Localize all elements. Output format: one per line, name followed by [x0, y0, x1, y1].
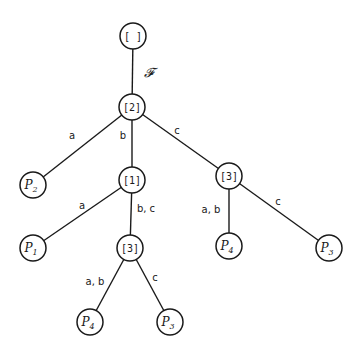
leaf-node-p3l: P3 — [157, 309, 183, 335]
edge-label: a — [79, 200, 85, 211]
node-label: [3] — [121, 243, 139, 254]
node-label: [1] — [123, 175, 141, 186]
leaf-node-p4l: P4 — [77, 309, 103, 335]
node-label: [ ] — [124, 31, 142, 42]
nodes-layer: [ ][2]P2[1][3]P1[3]P4P3P4P3 — [20, 23, 342, 335]
state-node-n3r: [3] — [216, 163, 242, 189]
edge-label: a — [69, 130, 75, 141]
edge-labels-layer: 𝓕abcab, ca, bca, bc — [69, 65, 281, 287]
node-label: [3] — [220, 171, 238, 182]
state-node-root: [ ] — [120, 23, 146, 49]
edge-n2-p2 — [33, 107, 132, 185]
edge-label: a, b — [202, 204, 221, 215]
edge-label: b — [120, 130, 126, 141]
edge-label: c — [152, 272, 158, 283]
leaf-node-p4r: P4 — [216, 233, 242, 259]
state-node-n1: [1] — [119, 167, 145, 193]
edges-layer — [33, 36, 329, 322]
tree-diagram: 𝓕abcab, ca, bca, bc [ ][2]P2[1][3]P1[3]P… — [0, 0, 358, 357]
state-node-n3l: [3] — [117, 235, 143, 261]
node-label: [2] — [123, 102, 141, 113]
leaf-node-p1: P1 — [20, 235, 46, 261]
state-node-n2: [2] — [119, 94, 145, 120]
edge-label: c — [275, 196, 281, 207]
leaf-node-p2: P2 — [20, 172, 46, 198]
edge-label: a, b — [86, 276, 105, 287]
edge-label: 𝓕 — [144, 65, 158, 80]
edge-n2-n3r — [132, 107, 229, 176]
edge-label: c — [174, 125, 180, 136]
edge-n3r-p3r — [229, 176, 329, 248]
edge-n1-p1 — [33, 180, 132, 248]
leaf-node-p3r: P3 — [316, 235, 342, 261]
edge-label: b, c — [137, 203, 155, 214]
